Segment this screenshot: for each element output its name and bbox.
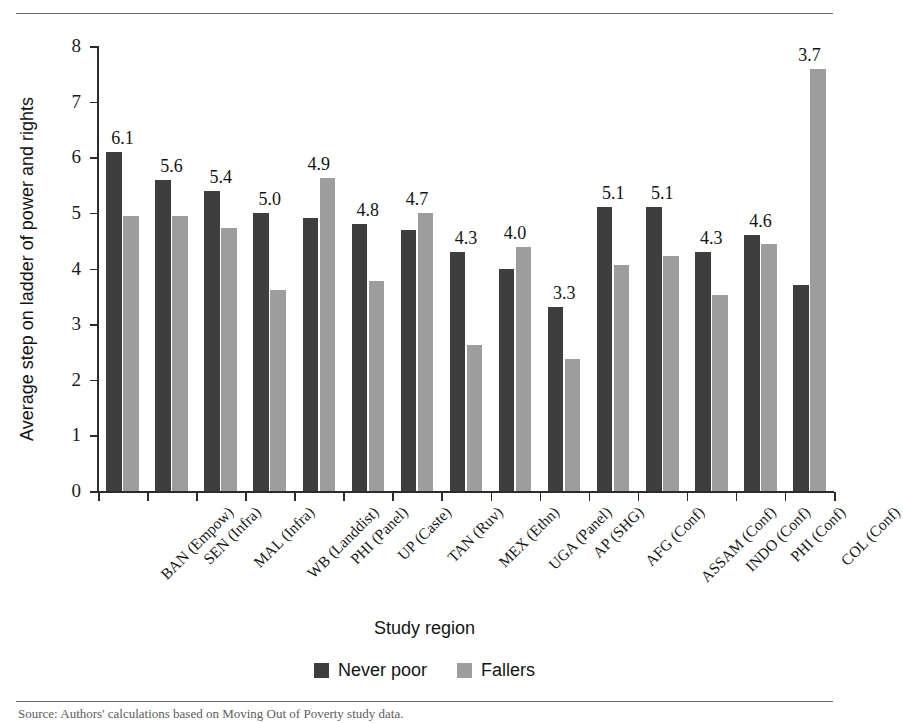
bottom-divider-rule xyxy=(16,701,833,702)
figure-caption-clipped: Source: Authors' calculations based on M… xyxy=(0,708,849,723)
bar-value-label-3: 5.0 xyxy=(258,190,281,208)
y-tick-0: 0 xyxy=(90,491,98,493)
bar-fallers-12 xyxy=(712,295,728,491)
legend-swatch-never-poor xyxy=(314,663,329,678)
bar-value-label-12: 4.3 xyxy=(700,229,723,247)
bar-fallers-4 xyxy=(320,178,336,491)
x-axis-line xyxy=(97,491,834,493)
y-tick-label-6: 6 xyxy=(72,147,82,166)
bar-value-label-1: 5.6 xyxy=(160,157,183,175)
bar-value-label-6: 4.7 xyxy=(406,190,429,208)
bar-value-label-4: 4.9 xyxy=(308,155,331,173)
y-tick-1: 1 xyxy=(90,435,98,437)
bar-never-poor-2 xyxy=(204,191,220,491)
x-tick-8 xyxy=(491,492,493,501)
x-tick-14 xyxy=(785,492,787,501)
chart-legend: Never poorFallers xyxy=(0,660,849,681)
bar-never-poor-1 xyxy=(155,180,171,492)
bar-fallers-11 xyxy=(663,256,679,491)
bar-fallers-3 xyxy=(270,290,286,491)
x-tick-6 xyxy=(392,492,394,501)
x-tick-9 xyxy=(540,492,542,501)
x-axis-label-10: AFG (Conf) xyxy=(643,504,708,569)
bar-never-poor-12 xyxy=(695,252,711,491)
bar-never-poor-0 xyxy=(106,152,122,491)
y-tick-5: 5 xyxy=(90,213,98,215)
bar-value-label-11: 5.1 xyxy=(651,184,674,202)
legend-label: Fallers xyxy=(481,660,535,681)
bar-never-poor-11 xyxy=(646,207,662,491)
bar-never-poor-8 xyxy=(499,269,515,492)
bar-value-label-10: 5.1 xyxy=(602,184,625,202)
legend-item-fallers[interactable]: Fallers xyxy=(457,660,535,681)
x-tick-3 xyxy=(245,492,247,501)
y-tick-label-3: 3 xyxy=(72,314,82,333)
bar-value-label-7: 4.3 xyxy=(455,229,478,247)
bar-fallers-2 xyxy=(221,228,237,491)
x-axis-label-14: COL (Conf) xyxy=(839,504,903,568)
y-tick-label-8: 8 xyxy=(72,36,82,55)
bar-value-label-0: 6.1 xyxy=(111,129,134,147)
x-tick-12 xyxy=(687,492,689,501)
bar-fallers-6 xyxy=(418,213,434,491)
bar-value-label-14: 3.7 xyxy=(798,46,821,64)
y-tick-2: 2 xyxy=(90,380,98,382)
x-tick-5 xyxy=(343,492,345,501)
legend-item-never-poor[interactable]: Never poor xyxy=(314,660,427,681)
bar-fallers-10 xyxy=(614,265,630,491)
y-tick-4: 4 xyxy=(90,269,98,271)
y-tick-8: 8 xyxy=(90,46,98,48)
x-tick-2 xyxy=(196,492,198,501)
bar-never-poor-13 xyxy=(744,235,760,491)
legend-swatch-fallers xyxy=(457,663,472,678)
x-tick-4 xyxy=(294,492,296,501)
bar-value-label-8: 4.0 xyxy=(504,224,527,242)
bar-fallers-1 xyxy=(172,216,188,491)
bar-fallers-5 xyxy=(369,281,385,491)
bar-value-label-5: 4.8 xyxy=(357,201,380,219)
legend-label: Never poor xyxy=(338,660,427,681)
x-tick-7 xyxy=(441,492,443,501)
bar-never-poor-9 xyxy=(548,307,564,491)
bar-fallers-8 xyxy=(516,247,532,491)
x-tick-13 xyxy=(736,492,738,501)
x-tick-15 xyxy=(834,492,836,501)
x-tick-11 xyxy=(638,492,640,501)
x-tick-1 xyxy=(147,492,149,501)
x-axis-title: Study region xyxy=(0,618,849,639)
bar-fallers-13 xyxy=(761,244,777,491)
bar-value-label-9: 3.3 xyxy=(553,284,576,302)
bar-never-poor-10 xyxy=(597,207,613,491)
bar-fallers-14 xyxy=(810,69,826,491)
y-tick-label-0: 0 xyxy=(72,481,82,500)
x-tick-0 xyxy=(98,492,100,501)
y-tick-label-7: 7 xyxy=(72,92,82,111)
y-tick-label-2: 2 xyxy=(72,370,82,389)
bar-never-poor-7 xyxy=(450,252,466,491)
bar-value-label-2: 5.4 xyxy=(209,168,232,186)
y-tick-3: 3 xyxy=(90,324,98,326)
top-divider-rule xyxy=(16,13,833,14)
y-tick-label-4: 4 xyxy=(72,259,82,278)
plot-area: 012345678 6.15.65.45.04.94.84.74.34.03.3… xyxy=(98,46,834,491)
y-tick-6: 6 xyxy=(90,157,98,159)
bar-never-poor-6 xyxy=(401,230,417,491)
y-tick-label-5: 5 xyxy=(72,203,82,222)
bar-never-poor-14 xyxy=(793,285,809,491)
figure-caption: Source: Authors' calculations based on M… xyxy=(18,708,403,722)
x-tick-10 xyxy=(589,492,591,501)
bar-never-poor-4 xyxy=(303,218,319,491)
y-tick-7: 7 xyxy=(90,102,98,104)
bar-never-poor-3 xyxy=(253,213,269,491)
y-axis-title: Average step on ladder of power and righ… xyxy=(14,46,40,492)
bar-value-label-13: 4.6 xyxy=(749,212,772,230)
bar-fallers-0 xyxy=(123,216,139,491)
bar-fallers-9 xyxy=(565,359,581,491)
figure-title-clipped: Comparison of never poor and fallers on … xyxy=(0,0,849,6)
bar-never-poor-5 xyxy=(352,224,368,491)
y-tick-label-1: 1 xyxy=(72,425,82,444)
bar-fallers-7 xyxy=(467,345,483,491)
